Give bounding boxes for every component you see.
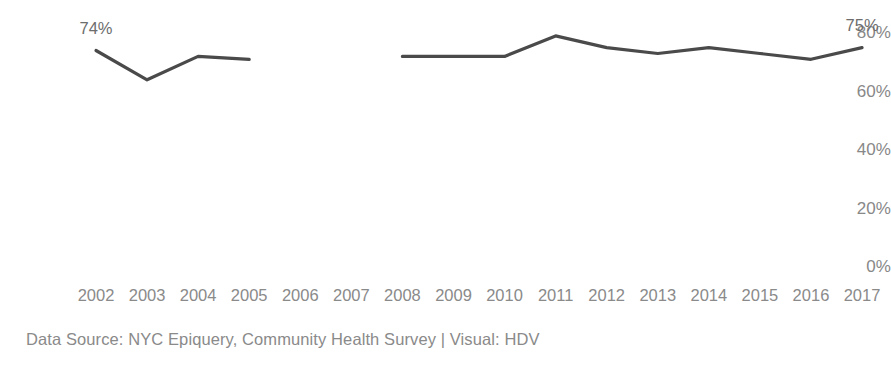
x-tick-label: 2009 <box>435 286 472 305</box>
x-tick-label: 2016 <box>793 286 830 305</box>
chart-container: 0%20%40%60%80% 74%75% 200220032004200520… <box>0 0 891 371</box>
x-tick-label: 2007 <box>333 286 370 305</box>
line-series-layer <box>0 0 891 300</box>
x-axis: 2002200320042005200620072008200920102011… <box>0 286 891 312</box>
line-segment-2008-2017 <box>402 36 862 59</box>
plot-area: 0%20%40%60%80% 74%75% <box>0 0 891 300</box>
x-tick-label: 2013 <box>639 286 676 305</box>
end-value-label: 75% <box>846 16 879 35</box>
start-value-label: 74% <box>79 19 112 38</box>
x-tick-label: 2005 <box>231 286 268 305</box>
y-tick-label: 20% <box>829 199 891 219</box>
x-tick-label: 2014 <box>690 286 727 305</box>
x-tick-label: 2003 <box>129 286 166 305</box>
x-tick-label: 2010 <box>486 286 523 305</box>
line-segment-2002-2005 <box>96 51 249 80</box>
x-tick-label: 2008 <box>384 286 421 305</box>
y-tick-label: 60% <box>829 82 891 102</box>
y-tick-label: 40% <box>829 140 891 160</box>
x-tick-label: 2011 <box>538 286 573 305</box>
y-tick-label: 0% <box>829 257 891 277</box>
x-tick-label: 2015 <box>742 286 779 305</box>
x-tick-label: 2006 <box>282 286 319 305</box>
x-tick-label: 2012 <box>588 286 625 305</box>
x-tick-label: 2004 <box>180 286 217 305</box>
x-tick-label: 2017 <box>844 286 881 305</box>
x-tick-label: 2002 <box>78 286 115 305</box>
source-note: Data Source: NYC Epiquery, Community Hea… <box>26 330 540 349</box>
